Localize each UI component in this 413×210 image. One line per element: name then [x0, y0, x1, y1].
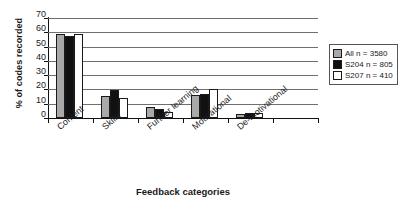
bar-chart: % of codes recorded 010203040506070 Feed…	[0, 0, 413, 210]
y-axis-tick-mark	[44, 47, 48, 48]
x-axis-tick-mark	[48, 119, 49, 123]
legend-item-label: S207 n = 410	[345, 71, 393, 80]
legend-item: All n = 3580	[333, 48, 393, 59]
x-axis-tick-mark	[228, 119, 229, 123]
bar	[56, 34, 65, 118]
y-axis-tick-mark	[44, 104, 48, 105]
y-axis-tick-label: 20	[22, 81, 46, 90]
bar	[191, 95, 200, 118]
y-axis-tick-mark	[44, 18, 48, 19]
y-axis-tick-mark	[44, 75, 48, 76]
y-axis-tick-mark	[44, 61, 48, 62]
legend-item-label: S204 n = 805	[345, 60, 393, 69]
y-axis-tick-mark	[44, 89, 48, 90]
y-axis-tick-label: 40	[22, 52, 46, 61]
gray-swatch	[333, 49, 342, 58]
bar-group	[101, 18, 128, 118]
y-axis-tick-label: 0	[22, 110, 46, 119]
legend-item: S204 n = 805	[333, 59, 393, 70]
x-axis-title: Feedback categories	[48, 186, 318, 197]
legend-item-label: All n = 3580	[345, 49, 387, 58]
gridline	[48, 47, 318, 48]
gridline	[48, 18, 318, 19]
x-axis-tick-mark	[93, 119, 94, 123]
gridline	[48, 32, 318, 33]
y-axis-tick-labels: 010203040506070	[22, 14, 46, 118]
gridline	[48, 75, 318, 76]
y-axis-tick-label: 30	[22, 67, 46, 76]
y-axis-tick-mark	[44, 32, 48, 33]
y-axis-tick-label: 60	[22, 24, 46, 33]
y-axis-tick-label: 70	[22, 10, 46, 19]
y-axis-tick-label: 50	[22, 38, 46, 47]
x-axis-tick-mark	[273, 119, 274, 123]
x-axis-tick-mark	[183, 119, 184, 123]
legend-item: S207 n = 410	[333, 70, 393, 81]
white-swatch	[333, 71, 342, 80]
bar	[65, 36, 74, 118]
gridline	[48, 61, 318, 62]
x-axis-tick-mark	[318, 119, 319, 123]
x-axis-tick-mark	[138, 119, 139, 123]
bar	[101, 96, 110, 118]
black-swatch	[333, 60, 342, 69]
chart-legend: All n = 3580S204 n = 805S207 n = 410	[329, 44, 398, 85]
y-axis-tick-label: 10	[22, 95, 46, 104]
